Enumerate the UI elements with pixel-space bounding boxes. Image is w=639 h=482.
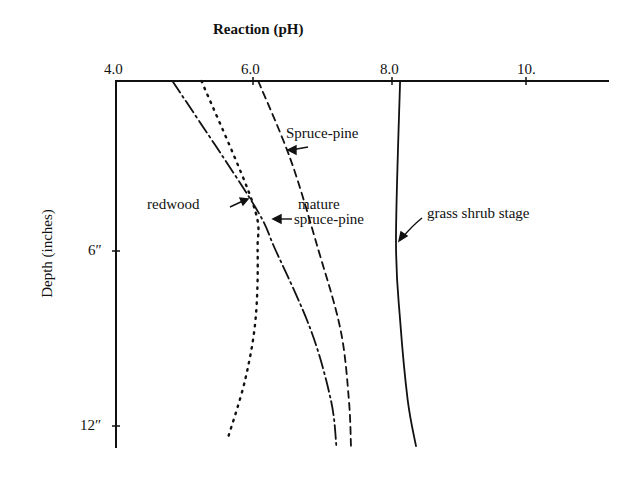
chart-title: Reaction (pH) [213, 22, 303, 37]
x-tick-label: 10. [517, 62, 536, 77]
x-tick-label: 8.0 [380, 62, 399, 77]
arrow-icon-redwood [230, 198, 248, 207]
y-tick-label: 12″ [80, 418, 101, 433]
y-tick-label: 6″ [88, 243, 102, 258]
annotation-mature-spruce-pine: spruce-pine [294, 212, 364, 227]
series-line-grass-shrub-stage [396, 81, 416, 446]
x-tick-label: 4.0 [104, 62, 123, 77]
y-axis-label: Depth (inches) [40, 199, 55, 309]
annotation-grass-shrub-stage: grass shrub stage [427, 206, 529, 221]
chart-canvas [0, 0, 639, 482]
arrow-icon-spruce-pine [288, 146, 308, 154]
annotation-redwood: redwood [147, 197, 200, 212]
x-tick-label: 6.0 [241, 62, 260, 77]
annotation-spruce-pine: Spruce-pine [286, 126, 358, 141]
annotation-mature: mature [298, 197, 340, 212]
arrow-icon-mature-spruce-pine [273, 215, 292, 223]
series-line-redwood [202, 81, 259, 436]
